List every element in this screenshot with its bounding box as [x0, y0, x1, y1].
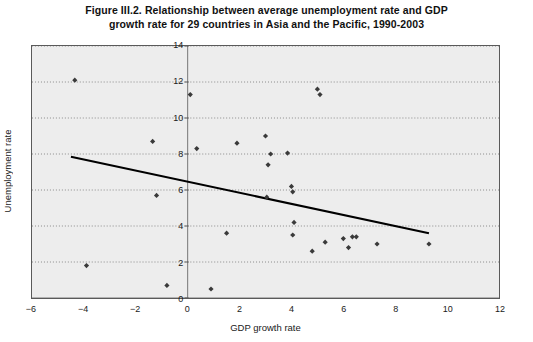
data-point [323, 240, 328, 245]
x-tick-label: −6 [26, 304, 36, 314]
data-point [72, 78, 77, 83]
y-axis-title-text: Unemployment rate [2, 130, 13, 213]
data-point [346, 245, 351, 250]
y-tick-label: 0 [163, 294, 183, 304]
data-point [315, 87, 320, 92]
data-point [234, 141, 239, 146]
data-point [268, 151, 273, 156]
trendline [71, 157, 429, 233]
plot-area [32, 46, 499, 298]
chart-title-line-1: Figure III.2. Relationship between avera… [24, 3, 509, 17]
data-point [341, 236, 346, 241]
data-point [317, 92, 322, 97]
data-point [291, 220, 296, 225]
x-axis-title: GDP growth rate [31, 322, 500, 333]
x-tick-label: 6 [341, 304, 346, 314]
data-point [289, 184, 294, 189]
data-point [194, 146, 199, 151]
data-point [150, 139, 155, 144]
scatter-plot-svg [32, 46, 499, 298]
data-point [354, 234, 359, 239]
data-point [426, 241, 431, 246]
y-tick-label: 10 [163, 113, 183, 123]
y-tick-label: 14 [163, 40, 183, 50]
data-point [208, 286, 213, 291]
data-point [285, 151, 290, 156]
data-point [84, 263, 89, 268]
data-point [224, 231, 229, 236]
plot-frame [31, 45, 500, 299]
y-tick-label: 8 [163, 149, 183, 159]
chart-title: Figure III.2. Relationship between avera… [0, 3, 533, 31]
x-tick-label: −2 [130, 304, 140, 314]
data-point [164, 283, 169, 288]
x-tick-label: 2 [237, 304, 242, 314]
x-tick-label: 8 [393, 304, 398, 314]
x-tick-label: 0 [185, 304, 190, 314]
y-axis-title: Unemployment rate [2, 130, 13, 213]
chart-title-line-2: growth rate for 29 countries in Asia and… [24, 17, 509, 31]
y-tick-label: 2 [163, 258, 183, 268]
y-tick-label: 4 [163, 221, 183, 231]
data-point [310, 249, 315, 254]
data-point [374, 241, 379, 246]
data-point [154, 193, 159, 198]
x-tick-label: 10 [443, 304, 453, 314]
x-tick-label: 4 [289, 304, 294, 314]
data-point [290, 189, 295, 194]
x-tick-label: 12 [495, 304, 505, 314]
data-point [188, 92, 193, 97]
data-point [263, 133, 268, 138]
data-point [266, 162, 271, 167]
y-tick-label: 6 [163, 185, 183, 195]
data-points [72, 78, 431, 292]
x-tick-label: −4 [78, 304, 88, 314]
data-point [290, 232, 295, 237]
figure-container: Figure III.2. Relationship between avera… [0, 0, 533, 342]
y-tick-label: 12 [163, 76, 183, 86]
gridlines [32, 46, 499, 262]
axis-lines [32, 46, 499, 298]
